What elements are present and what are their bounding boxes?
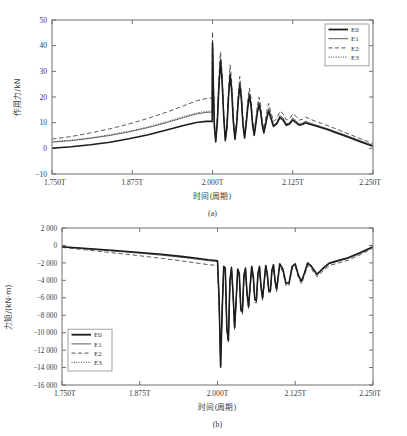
x-tick-label: 2.125T <box>282 178 304 187</box>
legend[interactable]: E0E1E2E3 <box>325 24 369 66</box>
legend-label-e2: E2 <box>94 350 102 358</box>
legend-label-e3: E3 <box>94 359 102 367</box>
y-tick-label: −16 000 <box>33 382 57 390</box>
y-tick-label: −12 000 <box>33 347 57 355</box>
chart-panel-b: 1.750T1.875T2.000T2.125T2.250T−16 000−14… <box>3 225 381 429</box>
x-axis-label: 时间(周期) <box>198 402 236 412</box>
x-tick-label: 1.875T <box>129 389 151 398</box>
legend-label-e1: E1 <box>351 35 359 43</box>
y-tick-label: 0 <box>53 242 57 250</box>
legend-label-e2: E2 <box>351 45 359 53</box>
y-tick-label: 10 <box>39 118 47 127</box>
y-axis-label: 力矩/(kN·m) <box>3 284 13 329</box>
figure-svg: 1.750T1.875T2.000T2.125T2.250T−100102030… <box>0 0 407 436</box>
x-tick-label: 2.000T <box>207 389 229 398</box>
y-axis-label: 作用力/kN <box>12 78 22 115</box>
y-tick-label: −10 000 <box>33 329 57 337</box>
legend-label-e0: E0 <box>94 331 102 339</box>
legend-label-e3: E3 <box>351 54 359 62</box>
x-tick-label: 2.125T <box>284 389 306 398</box>
x-axis-label: 时间(周期) <box>193 191 231 201</box>
y-tick-label: 20 <box>39 93 47 102</box>
chart-panel-a: 1.750T1.875T2.000T2.125T2.250T−100102030… <box>12 16 381 218</box>
y-tick-label: 30 <box>39 67 47 76</box>
y-tick-label: −8 000 <box>37 312 58 320</box>
y-tick-label: −4 000 <box>37 277 58 285</box>
x-tick-label: 1.750T <box>44 178 66 187</box>
y-tick-label: 50 <box>39 16 47 25</box>
legend-label-e0: E0 <box>351 26 359 34</box>
x-tick-label: 2.000T <box>202 178 224 187</box>
y-tick-label: −14 000 <box>33 364 57 372</box>
y-tick-label: 0 <box>43 144 47 153</box>
panel-caption: (b) <box>213 420 223 429</box>
x-tick-label: 1.750T <box>54 389 76 398</box>
y-tick-label: −6 000 <box>37 294 58 302</box>
legend[interactable]: E0E1E2E3 <box>68 329 112 371</box>
y-tick-label: −2 000 <box>37 260 58 268</box>
panel-caption: (a) <box>208 209 217 218</box>
y-tick-label: 2 000 <box>41 225 58 233</box>
x-tick-label: 1.875T <box>121 178 143 187</box>
y-tick-label: −10 <box>35 170 47 179</box>
y-tick-label: 40 <box>39 41 47 50</box>
x-tick-label: 2.250T <box>359 178 381 187</box>
legend-label-e1: E1 <box>94 341 102 349</box>
x-tick-label: 2.250T <box>359 389 381 398</box>
figure-container: 1.750T1.875T2.000T2.125T2.250T−100102030… <box>0 0 407 436</box>
